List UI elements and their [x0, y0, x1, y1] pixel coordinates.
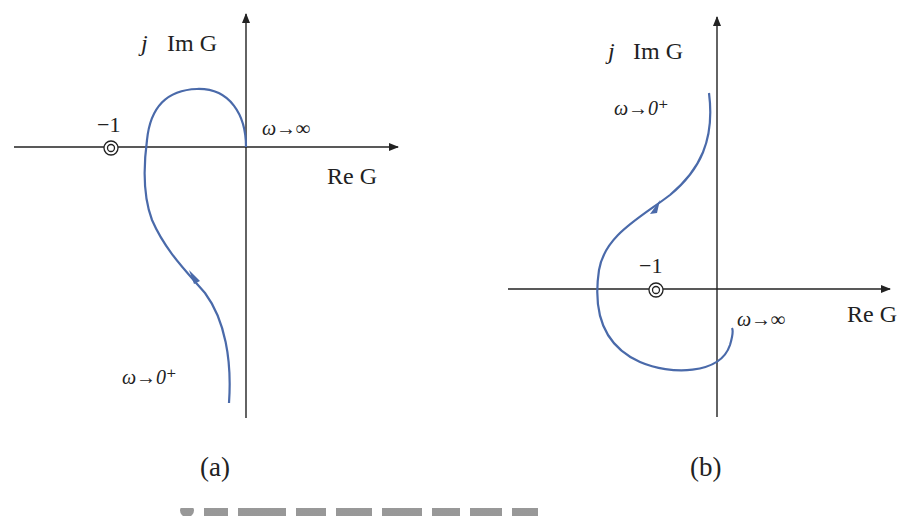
critical-point-icon [649, 283, 663, 297]
y-axis-label: Im G [633, 38, 683, 64]
x-axis-label: Re G [847, 301, 897, 327]
direction-arrow-icon [650, 200, 660, 214]
end-label: ω→∞ [262, 117, 310, 139]
panel-b: j Im G Re G −1 ω→0⁺ ω→∞ [508, 17, 897, 417]
start-label: ω→0⁺ [614, 97, 669, 119]
critical-point-icon [104, 141, 118, 155]
y-axis-label: Im G [167, 30, 217, 56]
panel-a: j Im G Re G −1 ω→∞ ω→0⁺ [14, 14, 398, 418]
critical-point-label: −1 [639, 253, 662, 278]
nyquist-figure: j Im G Re G −1 ω→∞ ω→0⁺ j Im G Re G −1 ω… [0, 0, 913, 516]
x-axis-label: Re G [327, 163, 377, 189]
caption-a: (a) [200, 452, 230, 483]
y-axis-label-j: j [138, 30, 148, 56]
critical-point-label: −1 [97, 112, 120, 137]
y-axis-label-j: j [605, 38, 615, 64]
cropped-figure-caption [180, 503, 720, 516]
end-label: ω→∞ [737, 308, 785, 330]
nyquist-curve-b [597, 93, 732, 370]
nyquist-curve-a [144, 89, 246, 403]
start-label: ω→0⁺ [122, 366, 177, 388]
caption-b: (b) [690, 452, 721, 483]
